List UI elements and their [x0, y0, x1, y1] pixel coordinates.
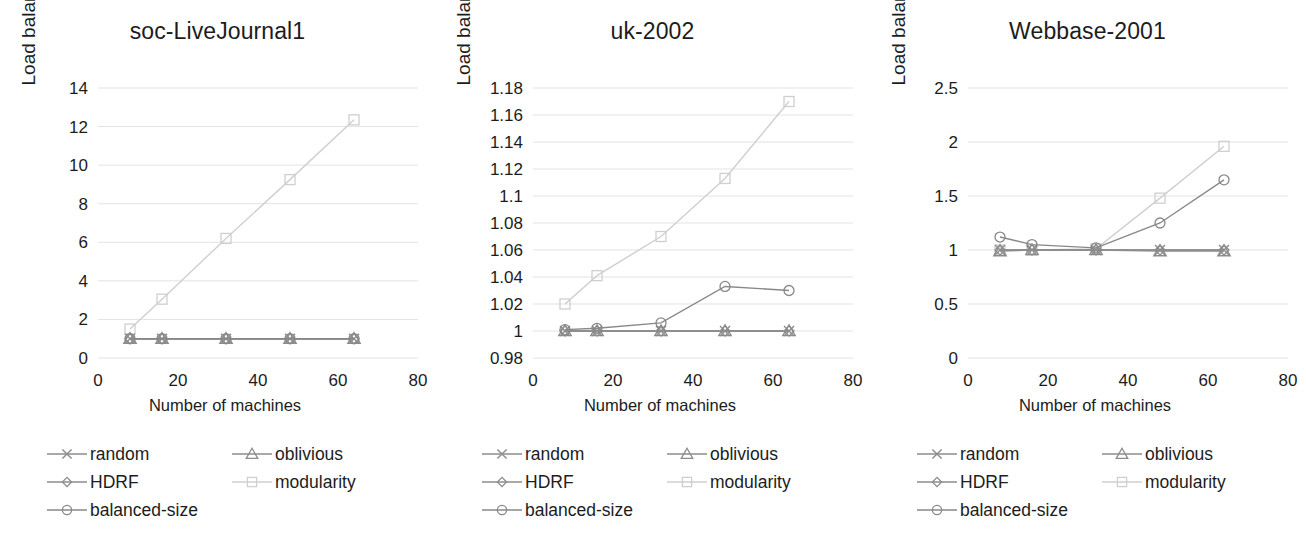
y-tick-label: 1.14: [490, 133, 523, 152]
x-tick-label: 60: [329, 371, 348, 390]
legend-label: balanced-size: [90, 500, 198, 521]
legend-label: modularity: [1145, 472, 1226, 493]
plot-area: 0.9811.021.041.061.081.11.121.141.161.18…: [435, 0, 870, 430]
legend-label: oblivious: [710, 444, 778, 465]
legend: randomobliviousHDRFmodularitybalanced-si…: [435, 440, 870, 550]
circle-marker-icon: [481, 501, 523, 519]
cross-marker-icon: [46, 445, 88, 463]
x-tick-label: 80: [409, 371, 428, 390]
legend-swatch: [1101, 445, 1143, 463]
legend-label: HDRF: [960, 472, 1009, 493]
square-marker-icon: [231, 473, 273, 491]
legend-label: HDRF: [90, 472, 139, 493]
legend-swatch: [1101, 473, 1143, 491]
legend-item-oblivious[interactable]: oblivious: [666, 440, 856, 468]
y-tick-label: 1.12: [490, 160, 523, 179]
y-tick-label: 8: [79, 195, 88, 214]
legend-swatch: [481, 501, 523, 519]
legend-swatch: [46, 473, 88, 491]
legend-swatch: [916, 473, 958, 491]
diamond-marker-icon: [481, 473, 523, 491]
x-tick-label: 20: [604, 371, 623, 390]
legend-item-random[interactable]: random: [481, 440, 666, 468]
legend-label: random: [525, 444, 584, 465]
x-tick-label: 20: [169, 371, 188, 390]
x-axis-title: Number of machines: [490, 396, 830, 415]
x-tick-label: 20: [1039, 371, 1058, 390]
y-tick-label: 1.02: [490, 295, 523, 314]
legend-item-balanced-size[interactable]: balanced-size: [916, 496, 1101, 524]
legend-label: HDRF: [525, 472, 574, 493]
legend-label: random: [960, 444, 1019, 465]
y-tick-label: 10: [69, 156, 88, 175]
series-balanced-size: [995, 175, 1229, 253]
y-tick-label: 6: [79, 233, 88, 252]
y-tick-label: 1: [514, 322, 523, 341]
legend-item-balanced-size[interactable]: balanced-size: [46, 496, 231, 524]
y-tick-label: 0.98: [490, 349, 523, 368]
legend-item-balanced-size[interactable]: balanced-size: [481, 496, 666, 524]
circle-marker-icon: [916, 501, 958, 519]
y-tick-label: 1.06: [490, 241, 523, 260]
chart-panel-uk-2002: uk-2002 Load balance factor 0.9811.021.0…: [435, 0, 870, 560]
x-tick-label: 40: [249, 371, 268, 390]
y-tick-label: 0: [949, 349, 958, 368]
legend-swatch: [916, 445, 958, 463]
legend-item-hdrf[interactable]: HDRF: [481, 468, 666, 496]
y-tick-label: 1.08: [490, 214, 523, 233]
legend-item-modularity[interactable]: modularity: [1101, 468, 1291, 496]
legend-item-oblivious[interactable]: oblivious: [231, 440, 421, 468]
series-balanced-size: [560, 281, 794, 334]
y-tick-label: 4: [79, 272, 88, 291]
legend-item-hdrf[interactable]: HDRF: [916, 468, 1101, 496]
y-tick-label: 12: [69, 118, 88, 137]
legend-label: oblivious: [1145, 444, 1213, 465]
series-modularity: [995, 141, 1229, 255]
triangle-marker-icon: [666, 445, 708, 463]
y-tick-label: 1.5: [934, 187, 958, 206]
series-hdrf: [560, 326, 794, 336]
y-tick-label: 1: [949, 241, 958, 260]
y-tick-label: 2: [79, 310, 88, 329]
cross-marker-icon: [481, 445, 523, 463]
legend-label: modularity: [275, 472, 356, 493]
legend: randomobliviousHDRFmodularitybalanced-si…: [0, 440, 435, 550]
legend-label: oblivious: [275, 444, 343, 465]
y-tick-label: 2.5: [934, 79, 958, 98]
legend-item-random[interactable]: random: [46, 440, 231, 468]
y-tick-label: 1.18: [490, 79, 523, 98]
legend-swatch: [481, 473, 523, 491]
diamond-marker-icon: [46, 473, 88, 491]
legend-swatch: [481, 445, 523, 463]
legend-item-oblivious[interactable]: oblivious: [1101, 440, 1291, 468]
x-axis-title: Number of machines: [55, 396, 395, 415]
series-modularity: [125, 115, 359, 334]
chart-panel-webbase-2001: Webbase-2001 Load balance factor 00.511.…: [870, 0, 1305, 560]
y-tick-label: 1.16: [490, 106, 523, 125]
y-tick-label: 2: [949, 133, 958, 152]
legend-label: modularity: [710, 472, 791, 493]
y-tick-label: 0: [79, 349, 88, 368]
square-marker-icon: [666, 473, 708, 491]
x-tick-label: 60: [764, 371, 783, 390]
legend-item-modularity[interactable]: modularity: [666, 468, 856, 496]
legend-swatch: [916, 501, 958, 519]
diamond-marker-icon: [916, 473, 958, 491]
legend-swatch: [231, 473, 273, 491]
legend-label: random: [90, 444, 149, 465]
legend-label: balanced-size: [525, 500, 633, 521]
legend-swatch: [666, 445, 708, 463]
legend-swatch: [231, 445, 273, 463]
circle-marker-icon: [46, 501, 88, 519]
legend: randomobliviousHDRFmodularitybalanced-si…: [870, 440, 1305, 550]
x-axis-title: Number of machines: [925, 396, 1265, 415]
x-tick-label: 40: [1119, 371, 1138, 390]
legend-item-random[interactable]: random: [916, 440, 1101, 468]
legend-item-hdrf[interactable]: HDRF: [46, 468, 231, 496]
x-tick-label: 80: [1279, 371, 1298, 390]
y-tick-label: 0.5: [934, 295, 958, 314]
legend-swatch: [46, 501, 88, 519]
legend-item-modularity[interactable]: modularity: [231, 468, 421, 496]
y-tick-label: 14: [69, 79, 88, 98]
legend-swatch: [46, 445, 88, 463]
